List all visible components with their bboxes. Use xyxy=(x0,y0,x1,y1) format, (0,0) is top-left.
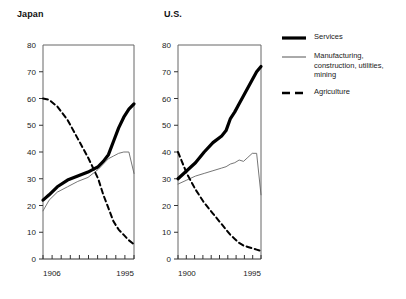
series-line-services xyxy=(43,104,134,200)
svg-text:60: 60 xyxy=(27,95,36,104)
panel-title-japan: Japan xyxy=(17,9,44,19)
svg-text:20: 20 xyxy=(162,202,171,211)
legend-item-services: Services xyxy=(281,32,403,44)
chart-panel-us: 0102030405060708019001995 xyxy=(148,30,288,299)
svg-text:70: 70 xyxy=(27,68,36,77)
svg-text:40: 40 xyxy=(27,148,36,157)
svg-text:1995: 1995 xyxy=(116,269,134,278)
svg-text:80: 80 xyxy=(162,41,171,50)
series-line-services xyxy=(178,66,261,178)
chart-legend: Services Manufacturing, construction, ut… xyxy=(281,32,403,106)
svg-text:40: 40 xyxy=(162,148,171,157)
legend-key-thin-solid-icon xyxy=(281,51,307,63)
series-line-manufacturing xyxy=(178,153,261,194)
svg-text:1906: 1906 xyxy=(43,269,61,278)
series-line-manufacturing xyxy=(43,152,134,211)
svg-text:80: 80 xyxy=(27,41,36,50)
panel-title-us: U.S. xyxy=(164,9,182,19)
legend-key-thick-solid-icon xyxy=(281,32,307,44)
chart-svg-japan: 0102030405060708019061995 xyxy=(0,30,150,299)
svg-text:1900: 1900 xyxy=(178,269,196,278)
legend-label-services: Services xyxy=(314,32,343,42)
svg-text:0: 0 xyxy=(32,255,37,264)
svg-text:10: 10 xyxy=(162,228,171,237)
svg-text:30: 30 xyxy=(27,175,36,184)
svg-text:10: 10 xyxy=(27,228,36,237)
svg-text:50: 50 xyxy=(162,121,171,130)
svg-text:70: 70 xyxy=(162,68,171,77)
chart-panel-japan: 0102030405060708019061995 xyxy=(0,30,150,299)
legend-label-manufacturing: Manufacturing, construction, utilities, … xyxy=(314,51,384,80)
svg-text:0: 0 xyxy=(167,255,172,264)
chart-svg-us: 0102030405060708019001995 xyxy=(148,30,288,299)
legend-label-agriculture: Agriculture xyxy=(314,87,350,97)
svg-text:20: 20 xyxy=(27,202,36,211)
svg-text:30: 30 xyxy=(162,175,171,184)
svg-text:60: 60 xyxy=(162,95,171,104)
legend-item-agriculture: Agriculture xyxy=(281,87,403,99)
svg-text:50: 50 xyxy=(27,121,36,130)
legend-key-dashed-icon xyxy=(281,87,307,99)
svg-text:1995: 1995 xyxy=(243,269,261,278)
legend-item-manufacturing: Manufacturing, construction, utilities, … xyxy=(281,51,403,80)
